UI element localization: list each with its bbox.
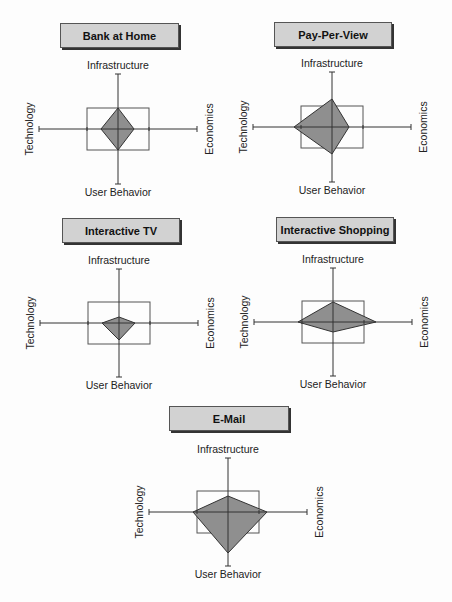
value-polygon	[193, 496, 267, 553]
axis-label-infrastructure: Infrastructure	[197, 443, 259, 455]
axis-label-economics: Economics	[313, 486, 325, 537]
axis-label-user-behavior: User Behavior	[195, 568, 262, 580]
axis-label-technology: Technology	[133, 485, 145, 538]
radar-plot	[0, 0, 452, 602]
